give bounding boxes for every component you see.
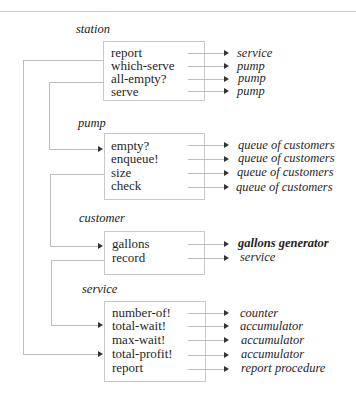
- connector-line: [51, 325, 99, 326]
- arrow-line: [188, 313, 226, 314]
- object-title-pump: pump: [78, 116, 106, 131]
- connector-line: [23, 60, 104, 61]
- arrow-head-icon: [224, 366, 229, 372]
- arrow-line: [188, 159, 226, 160]
- arrow-head-icon: [224, 50, 229, 56]
- arrow-line: [188, 66, 226, 67]
- arrow-head-icon: [98, 146, 103, 152]
- arrow-head-icon: [224, 323, 229, 329]
- arrow-line: [188, 173, 226, 174]
- arrow-line: [188, 91, 226, 92]
- connector-line: [50, 174, 51, 247]
- message-label: enqueue!: [111, 152, 159, 165]
- message-target: accumulator: [240, 320, 303, 333]
- object-title-customer: customer: [79, 211, 125, 226]
- arrow-head-icon: [224, 337, 229, 343]
- connector-line: [51, 260, 52, 326]
- connector-line: [49, 82, 50, 150]
- connector-line: [23, 354, 99, 355]
- arrow-head-icon: [224, 352, 229, 358]
- top-rule: [0, 11, 356, 12]
- arrow-line: [188, 340, 226, 341]
- arrow-head-icon: [224, 63, 229, 69]
- arrow-head-icon: [224, 255, 229, 261]
- arrow-head-icon: [224, 184, 229, 190]
- connector-line: [50, 246, 99, 247]
- arrow-line: [188, 145, 226, 146]
- message-label: total-profit!: [112, 347, 173, 360]
- arrow-head-icon: [224, 142, 229, 148]
- message-target: gallons generator: [238, 237, 329, 250]
- connector-line: [49, 149, 99, 150]
- arrow-head-icon: [98, 351, 103, 357]
- arrow-line: [188, 355, 226, 356]
- arrow-head-icon: [98, 322, 103, 328]
- arrow-line: [188, 187, 226, 188]
- message-target: queue of customers: [236, 181, 333, 194]
- arrow-head-icon: [224, 156, 229, 162]
- connector-line: [51, 260, 104, 261]
- message-target: pump: [237, 85, 265, 98]
- connector-line: [50, 174, 104, 175]
- arrow-head-icon: [224, 170, 229, 176]
- message-target: queue of customers: [237, 166, 334, 179]
- message-target: service: [240, 251, 275, 264]
- arrow-head-icon: [224, 88, 229, 94]
- object-title-service: service: [82, 282, 117, 297]
- message-label: check: [111, 179, 141, 192]
- arrow-line: [188, 79, 226, 80]
- connector-line: [23, 60, 24, 355]
- arrow-head-icon: [224, 310, 229, 316]
- message-label: record: [112, 251, 145, 264]
- message-target: report procedure: [241, 362, 325, 375]
- message-target: accumulator: [241, 348, 304, 361]
- arrow-line: [188, 53, 226, 54]
- message-label: report: [112, 361, 143, 374]
- message-target: accumulator: [241, 334, 304, 347]
- message-target: queue of customers: [238, 152, 335, 165]
- connector-line: [49, 82, 104, 83]
- arrow-head-icon: [224, 76, 229, 82]
- message-label: max-wait!: [112, 333, 165, 346]
- arrow-line: [188, 369, 226, 370]
- message-label: total-wait!: [112, 319, 166, 332]
- message-label: serve: [111, 85, 138, 98]
- message-label: gallons: [112, 237, 150, 250]
- arrow-head-icon: [98, 243, 103, 249]
- object-title-station: station: [76, 22, 110, 37]
- arrow-line: [188, 258, 226, 259]
- arrow-head-icon: [224, 241, 229, 247]
- arrow-line: [188, 244, 226, 245]
- arrow-line: [188, 326, 226, 327]
